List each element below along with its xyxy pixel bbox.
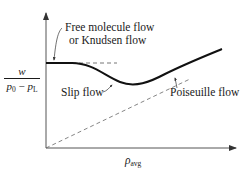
free-molecule-leader xyxy=(54,28,62,60)
pL-subscript: L xyxy=(33,85,38,94)
slip-flow-label: Slip flow xyxy=(61,86,104,98)
free-molecule-label-line2: or Knudsen flow xyxy=(69,34,146,46)
rho-subscript: avg xyxy=(131,159,142,168)
poiseuille-flow-label: Poiseuille flow xyxy=(170,86,239,98)
free-molecule-label-line1: Free molecule flow xyxy=(65,21,154,33)
y-label-denominator: p0 − pL xyxy=(2,80,42,96)
y-axis-label: w p0 − pL xyxy=(2,65,42,96)
fraction-bar xyxy=(4,78,40,79)
flow-curve xyxy=(46,49,222,84)
slip-leader xyxy=(103,85,112,92)
y-label-numerator: w xyxy=(2,65,42,77)
minus-sign: − xyxy=(16,80,28,92)
x-axis-label: ρavg xyxy=(125,154,141,170)
